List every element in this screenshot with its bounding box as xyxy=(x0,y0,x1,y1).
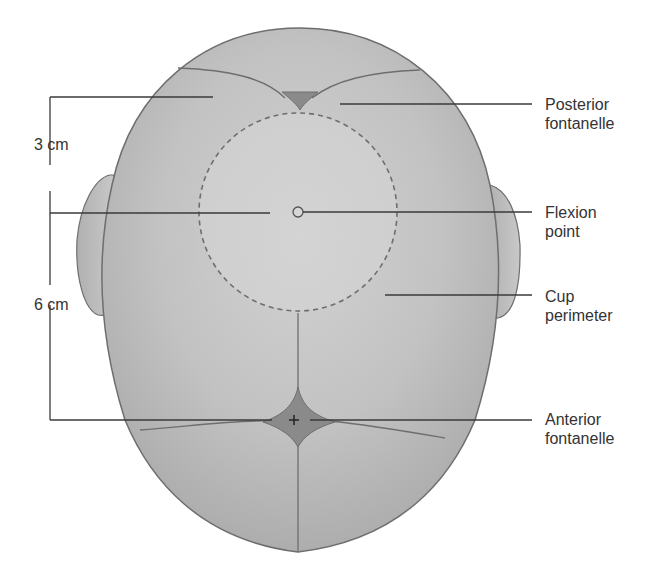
label-line: fontanelle xyxy=(545,429,614,448)
label-cup-perimeter: Cup perimeter xyxy=(545,287,613,325)
label-line: Posterior xyxy=(545,95,614,114)
label-line: Anterior xyxy=(545,410,614,429)
label-line: Cup xyxy=(545,287,613,306)
flexion-point-marker xyxy=(293,207,303,217)
label-line: fontanelle xyxy=(545,114,614,133)
label-anterior-fontanelle: Anterior fontanelle xyxy=(545,410,614,448)
label-line: point xyxy=(545,222,597,241)
dimension-label-6cm: 6 cm xyxy=(34,296,69,314)
label-line: Flexion xyxy=(545,203,597,222)
label-flexion-point: Flexion point xyxy=(545,203,597,241)
label-posterior-fontanelle: Posterior fontanelle xyxy=(545,95,614,133)
label-line: perimeter xyxy=(545,306,613,325)
dimension-label-3cm: 3 cm xyxy=(34,136,69,154)
